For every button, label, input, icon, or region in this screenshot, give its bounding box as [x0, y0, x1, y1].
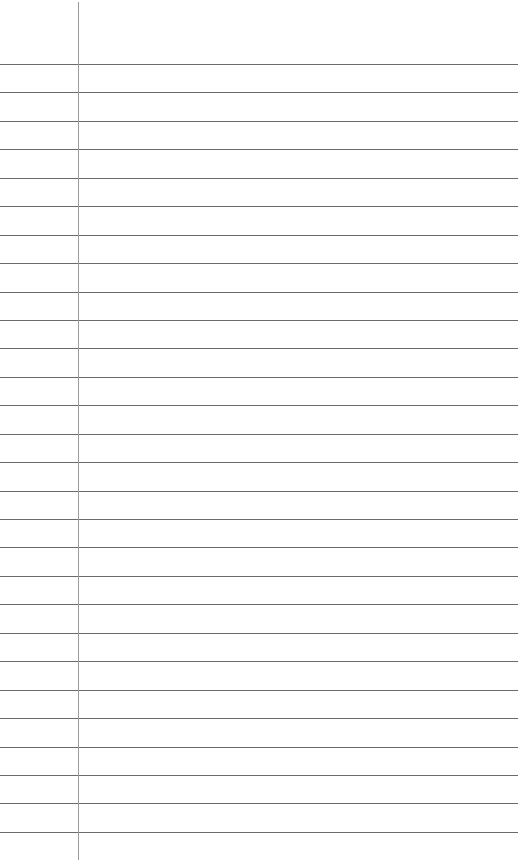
margin-line [78, 2, 79, 860]
